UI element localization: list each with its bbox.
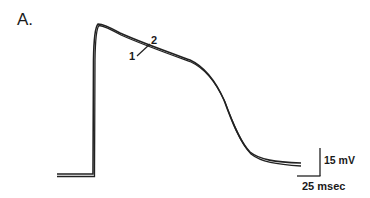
scale-mv-label: 15 mV <box>324 154 355 166</box>
action-potential-chart: 1 2 15 mV 25 msec <box>0 0 370 198</box>
trace-pointer <box>137 44 150 56</box>
trace-2-label: 2 <box>151 34 157 46</box>
scale-ms-label: 25 msec <box>302 180 345 192</box>
trace-1-label: 1 <box>129 50 135 62</box>
trace-1 <box>57 24 301 174</box>
